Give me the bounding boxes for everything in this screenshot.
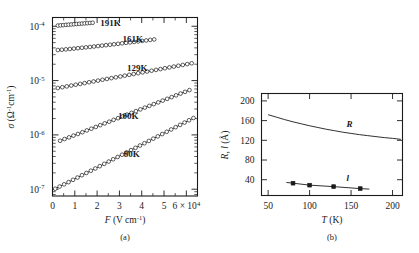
panel-a-datapoint [98, 164, 102, 168]
panel-a-y-ticklabel: 10-7 [30, 183, 46, 194]
panel-a-datapoint [76, 132, 80, 136]
panel-a-y-axis-title: σ (Ω-1cm-1) [5, 86, 17, 129]
panel-a-datapoint [81, 130, 85, 134]
panel-a-datapoint [156, 135, 160, 139]
panel-a: 10-410-510-610-7 0123456 × 104 191K161K1… [5, 18, 201, 243]
panel-b-series-label-l: l [347, 173, 350, 183]
panel-a-datapoint [192, 116, 196, 120]
panel-a-datapoint [143, 106, 147, 110]
panel-b-datapoint [291, 181, 295, 185]
panel-a-datapoint [102, 162, 106, 166]
panel-a-datapoint [78, 82, 82, 86]
panel-a-series-129K [56, 61, 194, 89]
panel-a-datapoint [93, 167, 97, 171]
panel-a-datapoint [187, 118, 191, 122]
panel-a-datapoint [67, 180, 71, 184]
panel-a-datapoint [172, 65, 176, 69]
panel-b-x-ticklabel: 150 [344, 201, 359, 211]
panel-b-y-ticklabel: 80 [245, 155, 255, 165]
panel-a-datapoint [174, 125, 178, 129]
panel-b-caption: (b) [327, 232, 337, 242]
panel-a-datapoint [87, 80, 91, 84]
panel-a-datapoint [105, 77, 109, 81]
panel-a-datapoint [80, 46, 84, 50]
panel-a-series-label-161K: 161K [123, 34, 144, 44]
panel-a-datapoint [151, 137, 155, 141]
panel-a-datapoint [62, 182, 66, 186]
panel-b-datapoint [332, 185, 336, 189]
panel-a-datapoint [178, 123, 182, 127]
panel-a-datapoint [96, 79, 100, 83]
panel-a-datapoint [56, 48, 60, 52]
panel-b-line-R [268, 115, 401, 140]
figure-svg: 10-410-510-610-7 0123456 × 104 191K161K1… [0, 0, 419, 253]
panel-a-datapoint [139, 108, 143, 112]
panel-a-datapoint [96, 44, 100, 48]
panel-a-datapoint [112, 118, 116, 122]
panel-a-datapoint [147, 104, 151, 108]
panel-a-datapoint [112, 42, 116, 46]
panel-a-datapoint [91, 21, 95, 25]
panel-a-datapoint [111, 157, 115, 161]
panel-a-datapoint [148, 38, 152, 42]
panel-a-datapoint [179, 92, 183, 96]
panel-a-datapoint [71, 178, 75, 182]
panel-a-datapoint [183, 121, 187, 125]
panel-a-datapoint [69, 84, 73, 88]
panel-a-datapoint [104, 43, 108, 47]
panel-a-datapoint [185, 62, 189, 66]
panel-b-line-l [286, 182, 369, 189]
panel-b-y-ticklabel: 200 [240, 96, 255, 106]
panel-b: 4080120160200 50100150200 Rl R, l (Å) T … [219, 94, 403, 243]
panel-a-datapoint [63, 137, 67, 141]
panel-a-datapoint [92, 45, 96, 49]
panel-a-datapoint [163, 66, 167, 70]
panel-a-datapoint [170, 95, 174, 99]
panel-a-datapoint [89, 127, 93, 131]
panel-a-datapoint [74, 83, 78, 87]
panel-b-x-ticklabel: 200 [385, 201, 400, 211]
panel-a-datapoint [143, 141, 147, 145]
panel-a-datapoint [94, 125, 98, 129]
panel-a-x-ticklabel: 2 [95, 201, 100, 211]
panel-a-datapoint [144, 39, 148, 43]
panel-a-datapoint [98, 123, 102, 127]
panel-a-datapoint [114, 75, 118, 79]
panel-b-series-labels: Rl [345, 119, 352, 183]
panel-b-series-label-R: R [345, 119, 352, 129]
panel-a-x-ticklabel: 6 × 104 [173, 200, 201, 211]
panel-a-y-ticklabel: 10-4 [30, 20, 46, 31]
panel-b-y-ticklabels: 4080120160200 [240, 96, 255, 185]
panel-a-datapoint [101, 78, 105, 82]
panel-a-datapoint [118, 75, 122, 79]
panel-a-datapoint [165, 97, 169, 101]
panel-a-datapoint [150, 69, 154, 73]
panel-b-x-ticklabel: 100 [302, 201, 317, 211]
panel-a-datapoint [60, 85, 64, 89]
svg-text:T (K): T (K) [322, 215, 343, 226]
panel-a-datapoint [76, 46, 80, 50]
panel-a-datapoint [169, 128, 173, 132]
panel-a-datapoint [56, 86, 60, 90]
panel-a-datapoint [85, 171, 89, 175]
panel-b-series-l [286, 181, 369, 190]
panel-a-datapoint [152, 38, 156, 42]
panel-a-datapoint [154, 68, 158, 72]
panel-a-datapoint [160, 132, 164, 136]
panel-a-datapoint [138, 144, 142, 148]
panel-a-datapoint [64, 47, 68, 51]
panel-a-datapoint [161, 99, 165, 103]
panel-a-datapoint [127, 73, 131, 77]
panel-b-series-group [268, 115, 401, 191]
panel-a-series-group [53, 21, 195, 191]
panel-a-datapoint [156, 101, 160, 105]
panel-a-x-ticklabel: 1 [72, 201, 77, 211]
svg-text:R, l (Å): R, l (Å) [219, 131, 231, 161]
panel-a-datapoint [60, 48, 64, 52]
panel-a-series-label-129K: 129K [127, 63, 148, 73]
panel-a-datapoint [58, 139, 62, 143]
panel-b-x-ticks [268, 94, 392, 196]
panel-a-datapoint [181, 63, 185, 67]
panel-a-datapoint [76, 176, 80, 180]
panel-b-x-ticklabels: 50100150200 [263, 201, 400, 211]
